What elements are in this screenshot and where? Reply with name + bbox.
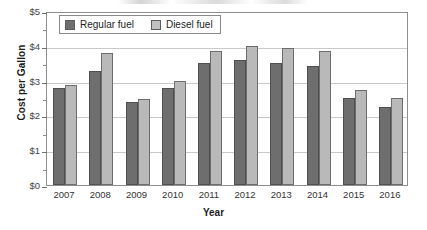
y-axis-tick-label: $1 (14, 145, 40, 156)
bar-group (162, 13, 186, 185)
y-axis-tick-label: $3 (14, 76, 40, 87)
y-axis-tick-labels: $0$1$2$3$4$5 (14, 0, 40, 230)
x-axis-tick-label: 2014 (298, 189, 338, 200)
y-axis-tick-major (42, 187, 47, 188)
bar-series-container (47, 13, 407, 185)
bar-regular-fuel (126, 102, 138, 185)
legend-item-regular-fuel: Regular fuel (65, 19, 134, 30)
x-axis-tick-label: 2016 (370, 189, 410, 200)
plot-area (46, 12, 408, 186)
x-axis-tick-label: 2009 (117, 189, 157, 200)
bar-group (89, 13, 113, 185)
legend-label-regular-fuel: Regular fuel (80, 19, 134, 30)
bar-regular-fuel (307, 66, 319, 185)
legend-item-diesel-fuel: Diesel fuel (151, 19, 213, 30)
bar-regular-fuel (198, 63, 210, 185)
bar-group (198, 13, 222, 185)
legend-label-diesel-fuel: Diesel fuel (166, 19, 213, 30)
bar-regular-fuel (89, 71, 101, 185)
bar-diesel-fuel (282, 48, 294, 185)
bar-group (270, 13, 294, 185)
x-axis-tick-label: 2010 (153, 189, 193, 200)
bar-regular-fuel (343, 98, 355, 185)
bar-diesel-fuel (174, 81, 186, 185)
y-axis-tick-label: $5 (14, 6, 40, 17)
y-axis-tick-label: $4 (14, 41, 40, 52)
x-axis-tick-label: 2012 (225, 189, 265, 200)
x-axis-tick-label: 2015 (334, 189, 374, 200)
bar-diesel-fuel (391, 98, 403, 185)
bar-group (379, 13, 403, 185)
bar-regular-fuel (162, 88, 174, 185)
bar-diesel-fuel (355, 90, 367, 185)
bar-regular-fuel (234, 60, 246, 185)
x-axis-tick-label: 2013 (261, 189, 301, 200)
bar-diesel-fuel (138, 99, 150, 185)
bar-group (343, 13, 367, 185)
legend-swatch-regular-fuel-icon (65, 20, 75, 30)
bar-group (126, 13, 150, 185)
x-axis-title: Year (0, 207, 427, 218)
bar-group (234, 13, 258, 185)
x-axis-tick-label: 2008 (80, 189, 120, 200)
y-axis-tick-label: $2 (14, 110, 40, 121)
bar-diesel-fuel (65, 85, 77, 185)
bar-diesel-fuel (210, 51, 222, 185)
legend-swatch-diesel-fuel-icon (151, 20, 161, 30)
chart-legend: Regular fuel Diesel fuel (59, 15, 221, 34)
x-axis-tick-label: 2007 (44, 189, 84, 200)
bar-regular-fuel (379, 107, 391, 185)
fuel-cost-bar-chart: Cost per Gallon $0$1$2$3$4$5 20072008200… (0, 0, 427, 230)
cropped-title-artifact (118, 0, 308, 4)
bar-group (53, 13, 77, 185)
bar-group (307, 13, 331, 185)
y-axis-tick-label: $0 (14, 180, 40, 191)
bar-regular-fuel (270, 63, 282, 185)
bar-diesel-fuel (246, 46, 258, 185)
bar-diesel-fuel (319, 51, 331, 185)
x-axis-tick-label: 2011 (189, 189, 229, 200)
bar-diesel-fuel (101, 53, 113, 185)
bar-regular-fuel (53, 88, 65, 185)
